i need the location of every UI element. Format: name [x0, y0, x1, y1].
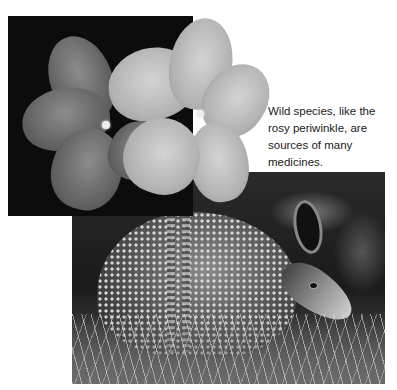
- grass: [72, 314, 385, 384]
- armadillo-eye: [309, 282, 318, 289]
- armadillo-ear: [290, 198, 327, 256]
- photo-caption: Wild species, like the rosy periwinkle, …: [268, 103, 396, 171]
- flower-center: [102, 121, 110, 129]
- flower-center: [196, 110, 204, 118]
